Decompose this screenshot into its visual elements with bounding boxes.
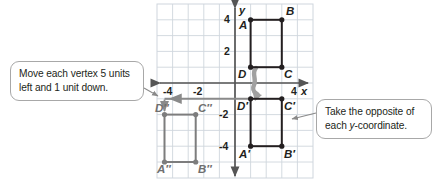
callout-reflect-line2-post: -coordinate. [354, 120, 407, 131]
y-tick-2: 2 [224, 45, 230, 57]
vertex-label-b-prime: B′ [284, 148, 295, 160]
vertex-label-c-prime: C′ [284, 100, 295, 112]
callout-translate-line1: Move each vertex 5 units [19, 67, 136, 81]
callout-reflect-line1: Take the opposite of [325, 105, 424, 119]
x-tick-neg2: -2 [193, 85, 202, 97]
callout-translate-line2: left and 1 unit down. [19, 81, 136, 95]
vertex-label-a: A [239, 19, 247, 31]
vertex-label-d-prime: D′ [237, 100, 248, 112]
figure-canvas: y x -4 -2 4 4 2 -2 -4 A B C D A′ B′ C′ D… [0, 0, 438, 183]
x-tick-4: 4 [291, 85, 297, 97]
x-axis-label: x [301, 85, 307, 97]
vertex-label-b-double-prime: B″ [198, 163, 212, 175]
callout-reflect-line2-pre: each [325, 120, 349, 131]
vertex-label-c: C [284, 68, 292, 80]
y-axis-label: y [239, 4, 245, 16]
vertex-label-a-double-prime: A″ [157, 163, 171, 175]
vertex-label-b: B [286, 5, 294, 17]
callout-left-leader [144, 88, 158, 96]
vertex-label-c-double-prime: C″ [198, 102, 212, 114]
callout-reflect-line2: each y-coordinate. [325, 119, 424, 133]
vertex-label-d-double-prime: D″ [155, 102, 169, 114]
callout-translate: Move each vertex 5 units left and 1 unit… [10, 61, 144, 101]
vertex-label-d: D [238, 68, 246, 80]
y-tick-neg2: -2 [219, 108, 228, 120]
y-tick-4: 4 [224, 13, 230, 25]
callout-reflect: Take the opposite of each y-coordinate. [316, 99, 432, 139]
vertex-label-a-prime: A′ [239, 148, 250, 160]
x-tick-neg4: -4 [163, 85, 172, 97]
y-tick-neg4: -4 [219, 140, 228, 152]
